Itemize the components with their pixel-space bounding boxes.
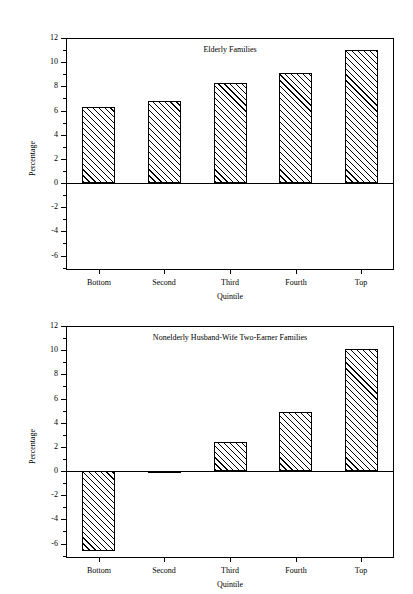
y-axis-tick-label: -4 xyxy=(40,515,58,523)
bar xyxy=(345,50,378,183)
x-axis-tick-label: Third xyxy=(221,279,239,287)
y-axis-tick-label: -2 xyxy=(40,203,58,211)
y-axis-tick-label: 6 xyxy=(40,107,58,115)
chart-title: Nonelderly Husband-Wife Two-Earner Famil… xyxy=(153,333,307,342)
zero-baseline xyxy=(66,183,394,184)
y-axis-tick-label: -2 xyxy=(40,491,58,499)
bar xyxy=(214,442,247,471)
x-axis-tick xyxy=(230,270,231,274)
chart-panel-elderly-families: Elderly Families Percentage Quintile 121… xyxy=(0,0,413,300)
y-axis-tick-label: 8 xyxy=(40,370,58,378)
y-axis-tick-minor xyxy=(63,411,66,412)
y-axis-tick-minor xyxy=(63,556,66,557)
x-axis-title: Quintile xyxy=(217,580,243,589)
x-axis-tick-label: Bottom xyxy=(87,567,111,575)
x-axis-tick-label: Top xyxy=(355,567,367,575)
y-axis-tick-label: 10 xyxy=(40,58,58,66)
y-axis-tick-label: 6 xyxy=(40,395,58,403)
y-axis-tick-major xyxy=(61,326,66,327)
y-axis-tick-minor xyxy=(63,459,66,460)
x-axis-tick-label: Third xyxy=(221,567,239,575)
y-axis-tick-minor xyxy=(63,435,66,436)
x-axis-tick-label: Second xyxy=(152,279,176,287)
y-axis-title: Percentage xyxy=(28,429,37,464)
bar xyxy=(279,73,312,183)
y-axis-tick-major xyxy=(61,135,66,136)
chart-title: Elderly Families xyxy=(203,45,256,54)
y-axis-tick-major xyxy=(61,38,66,39)
y-axis-tick-major xyxy=(61,231,66,232)
y-axis-tick-minor xyxy=(63,362,66,363)
y-axis-tick-major xyxy=(61,111,66,112)
y-axis-tick-label: 10 xyxy=(40,346,58,354)
y-axis-tick-minor xyxy=(63,147,66,148)
y-axis-tick-label: 4 xyxy=(40,131,58,139)
x-axis-tick xyxy=(361,270,362,274)
figure-two-panel-bar-charts: Elderly Families Percentage Quintile 121… xyxy=(0,0,413,594)
y-axis-tick-minor xyxy=(63,195,66,196)
x-axis-tick xyxy=(164,558,165,562)
x-axis-tick xyxy=(230,558,231,562)
y-axis-tick-minor xyxy=(63,507,66,508)
bar xyxy=(148,471,181,473)
y-axis-tick-minor xyxy=(63,50,66,51)
x-axis-tick-label: Bottom xyxy=(87,279,111,287)
chart-panel-nonelderly-two-earner-families: Nonelderly Husband-Wife Two-Earner Famil… xyxy=(0,300,413,594)
y-axis-tick-label: 4 xyxy=(40,419,58,427)
y-axis-tick-major xyxy=(61,519,66,520)
y-axis-tick-label: 12 xyxy=(40,34,58,42)
y-axis-tick-label: 2 xyxy=(40,443,58,451)
y-axis-tick-minor xyxy=(63,74,66,75)
y-axis-tick-major xyxy=(61,350,66,351)
y-axis-tick-major xyxy=(61,207,66,208)
y-axis-tick-label: 8 xyxy=(40,82,58,90)
y-axis-tick-major xyxy=(61,447,66,448)
bar xyxy=(214,83,247,183)
x-axis-tick xyxy=(296,270,297,274)
bar xyxy=(148,101,181,183)
bar xyxy=(82,471,115,551)
bar xyxy=(279,412,312,471)
y-axis-tick-label: 2 xyxy=(40,155,58,163)
bar xyxy=(345,349,378,471)
y-axis-tick-label: -6 xyxy=(40,252,58,260)
x-axis-tick-label: Second xyxy=(152,567,176,575)
y-axis-tick-major xyxy=(61,86,66,87)
x-axis-tick xyxy=(164,270,165,274)
y-axis-tick-minor xyxy=(63,219,66,220)
x-axis-tick-label: Fourth xyxy=(285,279,306,287)
y-axis-tick-minor xyxy=(63,123,66,124)
x-axis-tick-label: Top xyxy=(355,279,367,287)
bar xyxy=(82,107,115,183)
y-axis-tick-minor xyxy=(63,338,66,339)
zero-baseline xyxy=(66,471,394,472)
y-axis-tick-major xyxy=(61,423,66,424)
x-axis-tick xyxy=(99,270,100,274)
y-axis-tick-label: 12 xyxy=(40,322,58,330)
y-axis-tick-major xyxy=(61,159,66,160)
x-axis-tick xyxy=(296,558,297,562)
y-axis-tick-minor xyxy=(63,171,66,172)
y-axis-tick-minor xyxy=(63,98,66,99)
y-axis-tick-major xyxy=(61,399,66,400)
y-axis-tick-minor xyxy=(63,243,66,244)
y-axis-tick-label: 0 xyxy=(40,467,58,475)
y-axis-tick-major xyxy=(61,256,66,257)
y-axis-tick-major xyxy=(61,62,66,63)
x-axis-tick xyxy=(99,558,100,562)
y-axis-tick-minor xyxy=(63,386,66,387)
y-axis-tick-minor xyxy=(63,268,66,269)
y-axis-tick-label: 0 xyxy=(40,179,58,187)
y-axis-tick-label: -6 xyxy=(40,540,58,548)
y-axis-tick-minor xyxy=(63,483,66,484)
y-axis-tick-major xyxy=(61,374,66,375)
y-axis-title: Percentage xyxy=(28,141,37,176)
x-axis-tick-label: Fourth xyxy=(285,567,306,575)
y-axis-tick-minor xyxy=(63,531,66,532)
y-axis-tick-major xyxy=(61,544,66,545)
y-axis-tick-major xyxy=(61,495,66,496)
y-axis-tick-label: -4 xyxy=(40,227,58,235)
x-axis-tick xyxy=(361,558,362,562)
